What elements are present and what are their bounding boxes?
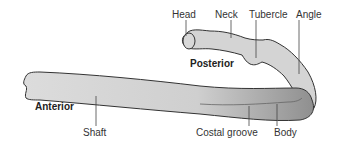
label-anterior: Anterior [35, 102, 74, 112]
label-posterior: Posterior [190, 59, 234, 69]
label-body: Body [274, 128, 297, 138]
rib-head [183, 33, 195, 49]
rib-shaft [24, 72, 314, 121]
rib-diagram: Head Neck Tubercle Angle Posterior Anter… [0, 0, 337, 149]
label-shaft: Shaft [83, 128, 106, 138]
label-costal-groove: Costal groove [196, 128, 258, 138]
label-neck: Neck [215, 10, 238, 20]
label-angle: Angle [296, 10, 322, 20]
label-head: Head [172, 10, 196, 20]
label-tubercle: Tubercle [249, 10, 288, 20]
